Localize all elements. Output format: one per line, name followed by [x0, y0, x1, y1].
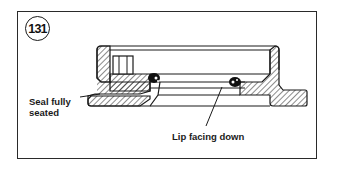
left-seal-lip [148, 73, 160, 83]
seal-label-line2: seated [29, 107, 89, 118]
bolt-block [113, 56, 133, 74]
right-housing-section [240, 46, 307, 106]
seal-cross-section-diagram [0, 0, 340, 178]
lip-facing-label: Lip facing down [172, 131, 244, 142]
seal-seated-label: Seal fully seated [29, 96, 89, 118]
seal-label-line1: Seal fully [29, 96, 89, 107]
right-seal-lip [229, 77, 241, 87]
